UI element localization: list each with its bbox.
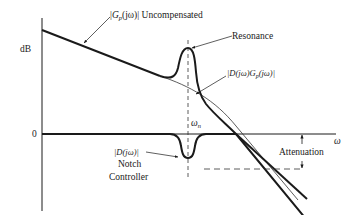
uncompensated-curve-thin: [160, 76, 298, 200]
compensated-leader: [196, 76, 226, 94]
notch-label-line1: Notch: [118, 159, 141, 169]
uncompensated-leader: [84, 17, 110, 43]
x-axis-label: ω: [334, 136, 341, 146]
bode-diagram: dB 0 ω |Gp(jω)| Uncompensated Resonance …: [0, 0, 354, 215]
notch-label-line2: Controller: [109, 172, 149, 182]
resonance-label: Resonance: [232, 31, 273, 41]
notch-expr-label: |D(jω)|: [114, 147, 139, 157]
omega-n-label: ωn: [191, 118, 201, 129]
notch-curve: [42, 134, 236, 158]
compensated-label: |D(jω)Gp(jω)|: [227, 68, 275, 79]
notch-leader: [146, 152, 178, 157]
uncompensated-thick-curve: [42, 30, 160, 76]
y-axis-label: dB: [20, 44, 31, 54]
attenuation-label: Attenuation: [279, 147, 324, 157]
zero-label: 0: [32, 129, 37, 139]
uncompensated-label: |Gp(jω)| Uncompensated: [110, 10, 203, 21]
resonance-leader: [192, 36, 232, 48]
compensated-asymptote: [236, 134, 307, 199]
